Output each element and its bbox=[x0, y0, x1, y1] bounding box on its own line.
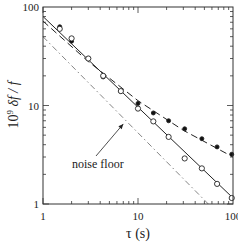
y-tick-label: 100 bbox=[23, 1, 40, 13]
y-axis-label: 109 δf / f bbox=[5, 79, 21, 128]
x-tick-label: 100 bbox=[225, 210, 238, 222]
x-tick-label: 10 bbox=[133, 210, 145, 222]
open-point bbox=[166, 134, 171, 139]
x-axis-label: τ (s) bbox=[126, 226, 150, 242]
chart: 110100110100 τ (s) 109 δf / f noise floo… bbox=[0, 0, 238, 245]
open-point bbox=[199, 166, 204, 171]
x-tick-label: 1 bbox=[40, 210, 46, 222]
filled-point bbox=[215, 145, 219, 149]
open-point bbox=[182, 156, 187, 161]
open-point bbox=[57, 26, 62, 31]
open-point bbox=[118, 89, 123, 94]
open-point bbox=[214, 181, 219, 186]
annotation: noise floor bbox=[72, 124, 124, 171]
filled-point bbox=[151, 111, 155, 115]
tick-labels: 110100110100 bbox=[23, 1, 239, 222]
filled-point bbox=[183, 127, 187, 131]
open-point bbox=[229, 195, 234, 200]
open-point bbox=[69, 36, 74, 41]
open-point bbox=[151, 119, 156, 124]
filled-point bbox=[167, 119, 171, 123]
open-point bbox=[86, 56, 91, 61]
open-point bbox=[135, 106, 140, 111]
noise-floor-label: noise floor bbox=[72, 157, 124, 171]
filled-point bbox=[200, 137, 204, 141]
y-axis-label-prefix: 10 bbox=[6, 115, 21, 129]
line-noise-floor bbox=[43, 37, 208, 204]
y-axis-label-rest: δf / f bbox=[6, 79, 21, 110]
y-tick-label: 10 bbox=[28, 100, 40, 112]
open-point bbox=[101, 73, 106, 78]
annotation-arrow-line bbox=[96, 124, 123, 156]
y-tick-label: 1 bbox=[34, 198, 40, 210]
filled-point bbox=[136, 101, 140, 105]
